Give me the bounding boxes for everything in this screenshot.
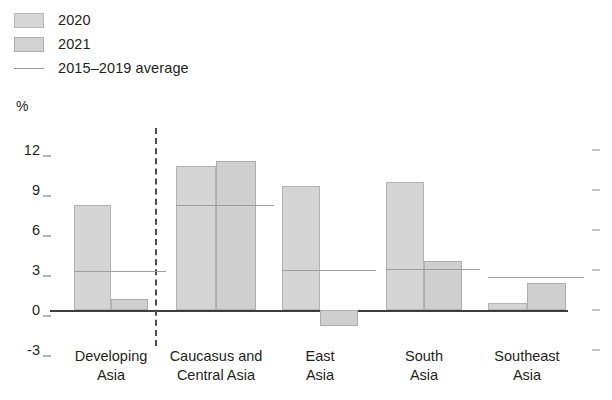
bar-2021 (320, 310, 358, 326)
average-reference-line (282, 270, 376, 271)
y-axis-unit-label: % (16, 98, 28, 114)
y-tick-mark-right (592, 270, 600, 271)
y-tick-mark (43, 236, 51, 237)
y-tick-mark (43, 355, 51, 356)
bar-2021 (111, 299, 148, 310)
x-category-label: Caucasus and Central Asia (170, 347, 263, 385)
y-tick-mark (43, 276, 51, 277)
y-tick-label: 9 (6, 182, 40, 198)
y-tick-mark-right (592, 230, 600, 231)
average-reference-line (74, 271, 166, 272)
bar-2020 (176, 166, 216, 310)
average-reference-line (176, 205, 274, 206)
bar-2020 (488, 303, 527, 310)
bar-2021 (527, 283, 566, 310)
y-tick-label: 0 (6, 302, 40, 318)
bar-2020 (74, 205, 111, 310)
y-tick-mark (43, 316, 51, 317)
x-category-label: South Asia (405, 347, 443, 385)
average-reference-line (488, 277, 584, 278)
y-tick-label: -3 (6, 342, 40, 358)
y-tick-mark-right (592, 150, 600, 151)
y-tick-mark-right (592, 310, 600, 311)
region-divider-dashed (155, 128, 157, 346)
y-tick-label: 3 (6, 262, 40, 278)
x-category-label: Developing Asia (75, 347, 148, 385)
bar-2020 (386, 182, 424, 310)
bar-2020 (282, 186, 320, 310)
x-category-label: East Asia (305, 347, 334, 385)
bar-chart: % 129630-3 Developing AsiaCaucasus and C… (0, 0, 612, 400)
y-tick-mark (43, 196, 51, 197)
y-tick-mark (43, 156, 51, 157)
x-category-label: Southeast Asia (494, 347, 559, 385)
average-reference-line (386, 269, 480, 270)
zero-baseline (50, 310, 568, 312)
bar-2021 (216, 161, 256, 310)
y-tick-label: 12 (6, 142, 40, 158)
y-tick-mark-right (592, 349, 600, 350)
y-tick-mark-right (592, 190, 600, 191)
y-tick-label: 6 (6, 222, 40, 238)
